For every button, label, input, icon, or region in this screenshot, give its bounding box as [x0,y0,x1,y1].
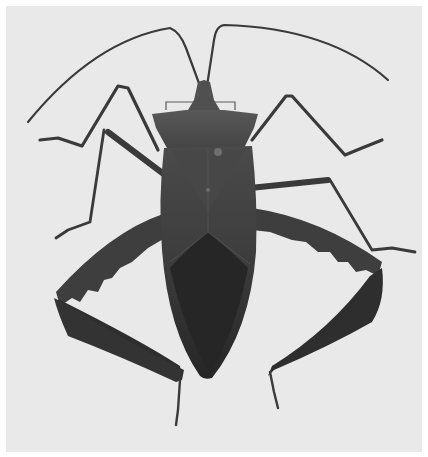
right-hind-tarsus [270,372,278,408]
head [166,80,235,110]
insect-illustration [0,0,428,457]
right-middle-femur [250,180,328,188]
left-middle-femur [108,132,165,175]
head-capsule [188,80,220,110]
right-hind-femur [252,208,382,276]
left-hind-tarsus [176,380,180,425]
left-front-leg [40,86,158,150]
left-hind-tibia-outline [54,298,184,382]
image-frame: Leaf-footed bug (Coreidae), dorsal view [0,0,428,457]
right-hind-tibia-leaf [268,268,383,376]
right-front-leg [252,96,382,155]
pronotum [152,110,258,150]
left-antenna [28,28,200,122]
right-antenna [207,25,388,86]
